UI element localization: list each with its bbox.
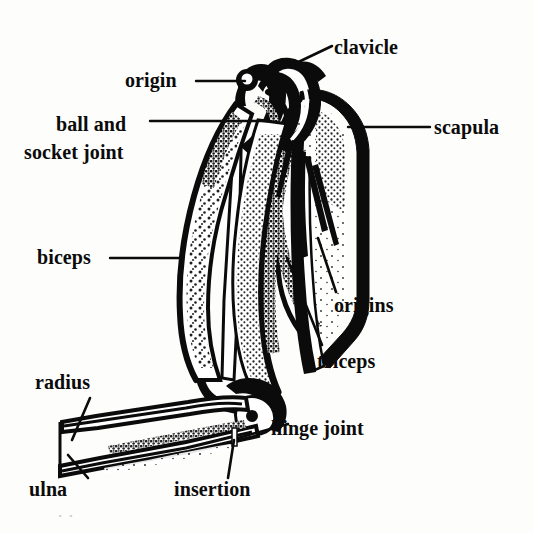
label-scapula: scapula bbox=[434, 116, 499, 138]
label-ball-and-socket-joint-line1: ball and bbox=[56, 111, 126, 138]
label-ulna: ulna bbox=[29, 478, 67, 500]
label-radius: radius bbox=[35, 371, 90, 393]
label-origin: origin bbox=[125, 69, 177, 91]
label-triceps: triceps bbox=[317, 350, 375, 372]
label-origins: origins bbox=[334, 294, 394, 316]
label-clavicle: clavicle bbox=[334, 36, 398, 58]
label-hinge-joint: hinge joint bbox=[271, 417, 364, 439]
label-biceps: biceps bbox=[37, 246, 91, 268]
label-ball-and-socket-joint-line2: socket joint bbox=[24, 139, 124, 166]
label-insertion: insertion bbox=[174, 478, 250, 500]
anatomy-figure: clavicle origin ball and socket joint sc… bbox=[0, 0, 533, 533]
scan-artifact-smudge: · · bbox=[58, 508, 73, 524]
